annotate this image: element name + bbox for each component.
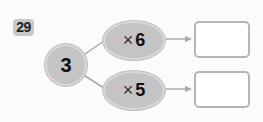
branch-line-top (82, 41, 104, 56)
arrow-icon-top (166, 36, 192, 42)
answer-box-top[interactable] (194, 21, 250, 58)
operation-multiply-6: × 6 (103, 21, 165, 60)
arrow-icon-bottom (166, 86, 192, 92)
operation-multiply-5: × 5 (103, 71, 165, 110)
operand: 5 (135, 80, 145, 101)
multiply-sign: × (123, 30, 134, 51)
operand: 6 (135, 30, 145, 51)
answer-box-bottom[interactable] (194, 71, 250, 108)
branch-line-bottom (82, 74, 104, 88)
start-value-circle: 3 (45, 44, 87, 86)
multiply-sign: × (123, 80, 134, 101)
